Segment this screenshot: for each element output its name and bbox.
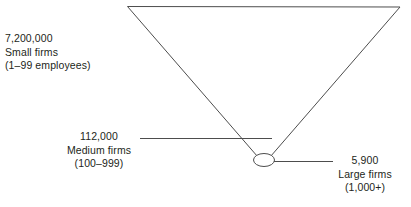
small-firms-detail: (1–99 employees) [5, 59, 91, 73]
small-firms-name: Small firms [5, 46, 91, 60]
small-firms-value: 7,200,000 [5, 32, 91, 46]
medium-firms-name: Medium firms [58, 144, 140, 158]
medium-firms-detail: (100–999) [58, 157, 140, 171]
large-firms-value: 5,900 [322, 154, 408, 168]
medium-firms-label: 112,000 Medium firms (100–999) [58, 130, 140, 171]
firm-size-diagram: 7,200,000 Small firms (1–99 employees) 1… [0, 0, 411, 207]
large-firms-detail: (1,000+) [322, 181, 408, 195]
large-firms-highlight-ellipse [254, 154, 275, 167]
large-firms-name: Large firms [322, 168, 408, 182]
medium-firms-value: 112,000 [58, 130, 140, 144]
small-firms-label: 7,200,000 Small firms (1–99 employees) [5, 32, 91, 73]
inverted-triangle-shape [128, 7, 401, 165]
large-firms-label: 5,900 Large firms (1,000+) [322, 154, 408, 195]
